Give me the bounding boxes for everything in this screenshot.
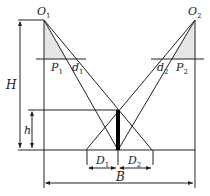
label-H: H [5, 78, 17, 92]
ray-o2-bottom [118, 20, 195, 150]
obstacle-bar [116, 110, 120, 150]
label-d1: d1 [72, 61, 84, 76]
label-B: B [115, 170, 125, 184]
label-d2: d2 [157, 61, 169, 76]
sight-line-diagram: O1 O2 P1 d1 d2 P2 H h D1 D2 B [0, 0, 210, 196]
label-D1: D1 [95, 154, 109, 169]
label-h: h [24, 124, 31, 137]
label-P1: P1 [50, 61, 63, 76]
label-P2: P2 [175, 61, 188, 76]
label-O2: O2 [188, 5, 202, 20]
label-D2: D2 [127, 154, 141, 169]
label-O1: O1 [37, 5, 51, 20]
ray-o2-top [86, 20, 195, 150]
ray-o1-bottom [44, 20, 118, 150]
ray-o1-top [44, 20, 152, 150]
